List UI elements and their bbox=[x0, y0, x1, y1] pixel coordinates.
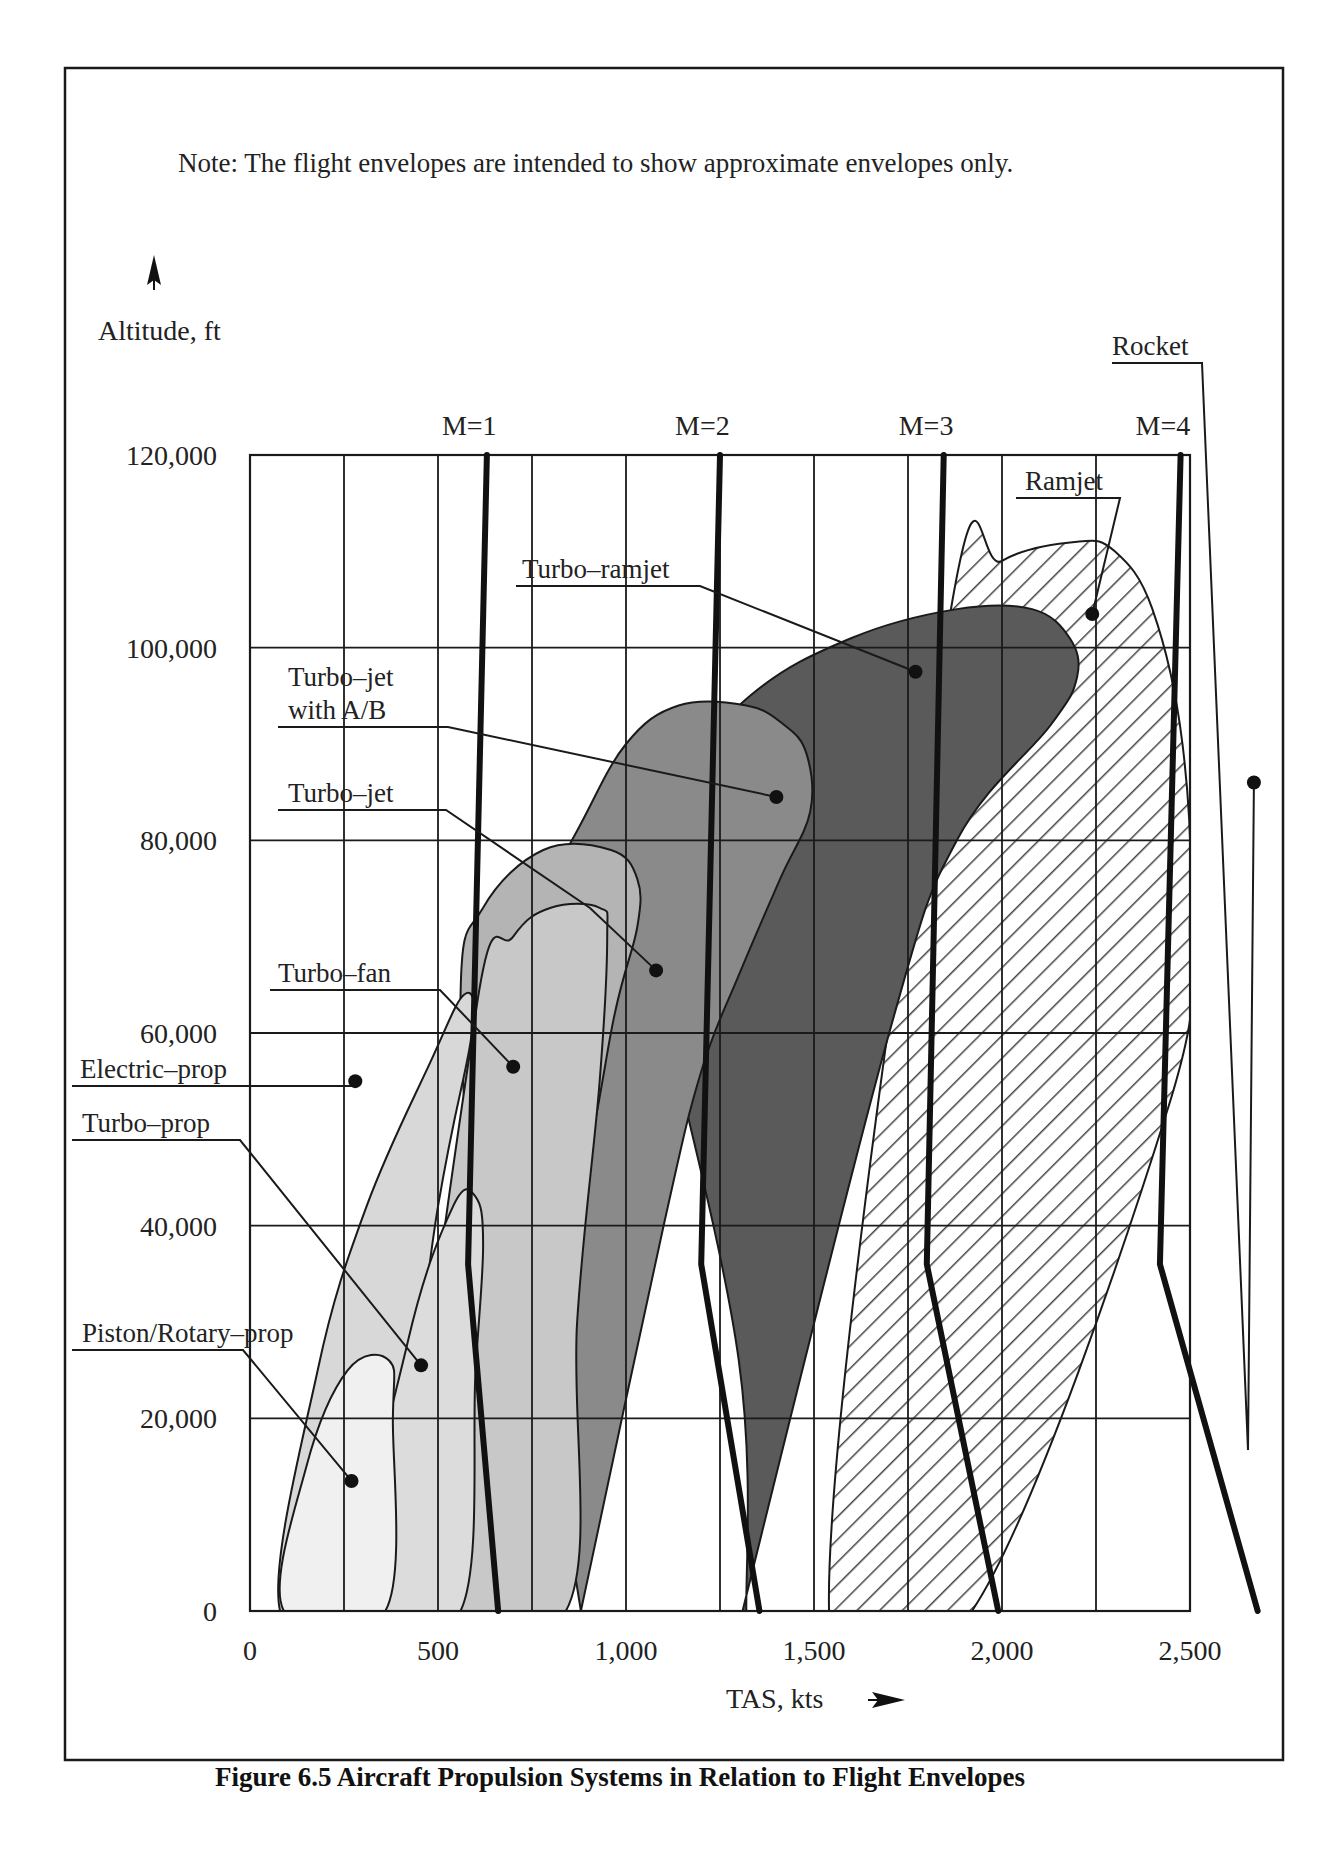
marker-turbo-jet-with-a-b bbox=[769, 790, 783, 804]
envelope-label-text: Turbo–jet bbox=[288, 778, 394, 808]
x-tick-label: 1,000 bbox=[595, 1635, 658, 1666]
envelope-label-text: Turbo–fan bbox=[278, 958, 392, 988]
x-tick-label: 2,000 bbox=[971, 1635, 1034, 1666]
y-tick-label: 60,000 bbox=[140, 1018, 217, 1049]
x-axis-title: TAS, kts bbox=[726, 1683, 823, 1714]
marker-piston-rotary-prop bbox=[345, 1474, 359, 1488]
envelope-label-electric-prop: Electric–prop bbox=[72, 1054, 362, 1088]
x-tick-label: 1,500 bbox=[783, 1635, 846, 1666]
marker-rocket bbox=[1247, 776, 1261, 790]
envelope-label-text: Turbo–prop bbox=[82, 1108, 210, 1138]
altitude-arrow-icon bbox=[147, 255, 161, 290]
envelope-label-text: Ramjet bbox=[1025, 466, 1103, 496]
mach-label-m-2: M=2 bbox=[675, 410, 730, 441]
envelopes-layer bbox=[278, 521, 1192, 1715]
mach-label-m-3: M=3 bbox=[899, 410, 954, 441]
marker-turbo-prop bbox=[414, 1358, 428, 1372]
y-tick-label: 20,000 bbox=[140, 1403, 217, 1434]
envelope-label-text: Rocket bbox=[1112, 331, 1189, 361]
y-tick-label: 120,000 bbox=[126, 440, 217, 471]
figure-caption: Figure 6.5 Aircraft Propulsion Systems i… bbox=[215, 1762, 1025, 1792]
mach-label-m-4: M=4 bbox=[1136, 410, 1191, 441]
envelope-label-text: Turbo–ramjet bbox=[522, 554, 670, 584]
figure: Note: The flight envelopes are intended … bbox=[0, 0, 1343, 1867]
marker-turbo-ramjet bbox=[909, 665, 923, 679]
envelope-label-text: with A/B bbox=[288, 695, 386, 725]
envelope-label-text: Piston/Rotary–prop bbox=[82, 1318, 294, 1348]
mach-label-m-1: M=1 bbox=[442, 410, 497, 441]
y-tick-label: 100,000 bbox=[126, 633, 217, 664]
marker-turbo-fan bbox=[506, 1060, 520, 1074]
x-tick-label: 2,500 bbox=[1159, 1635, 1222, 1666]
tas-arrow-icon bbox=[868, 1692, 905, 1708]
marker-electric-prop bbox=[348, 1074, 362, 1088]
y-tick-label: 0 bbox=[203, 1596, 217, 1627]
y-axis-title: Altitude, ft bbox=[98, 315, 221, 346]
x-tick-label: 0 bbox=[243, 1635, 257, 1666]
marker-ramjet bbox=[1085, 607, 1099, 621]
x-tick-label: 500 bbox=[417, 1635, 459, 1666]
envelope-label-text: Electric–prop bbox=[80, 1054, 227, 1084]
y-tick-label: 40,000 bbox=[140, 1211, 217, 1242]
y-tick-label: 80,000 bbox=[140, 825, 217, 856]
envelope-label-text: Turbo–jet bbox=[288, 662, 394, 692]
note-text: Note: The flight envelopes are intended … bbox=[178, 148, 1013, 178]
marker-turbo-jet bbox=[649, 963, 663, 977]
